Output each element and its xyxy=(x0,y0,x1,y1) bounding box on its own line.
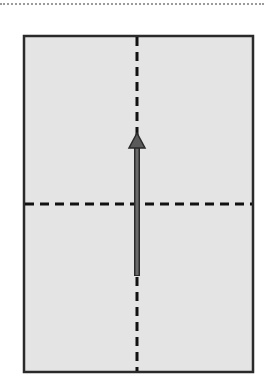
diagram-canvas xyxy=(0,0,264,389)
